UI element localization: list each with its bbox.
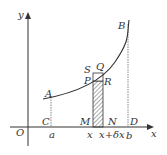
tick-b: b [126,130,132,141]
label-M: M [79,116,91,127]
label-C: C [42,116,50,127]
label-P: P [83,75,91,86]
label-S: S [84,64,91,75]
label-x: x [151,128,157,139]
rectangle-PQRS [93,73,103,81]
tick-x-plus-dx: x+δx [99,129,125,140]
curve-AB [43,20,129,99]
y-axis-arrow-icon [25,12,31,19]
label-N: N [107,116,118,127]
label-A: A [44,88,52,99]
label-y: y [17,9,24,20]
label-origin: O [16,127,24,138]
tick-x: x [87,129,93,140]
label-R: R [103,76,112,87]
tick-a: a [49,129,55,140]
label-D: D [129,116,138,127]
label-B: B [117,20,125,31]
hatched-strip [93,81,103,127]
area-under-curve-diagram: y x O A B C D M N S Q P R a x x+δx b [0,0,167,155]
label-Q: Q [96,61,104,72]
